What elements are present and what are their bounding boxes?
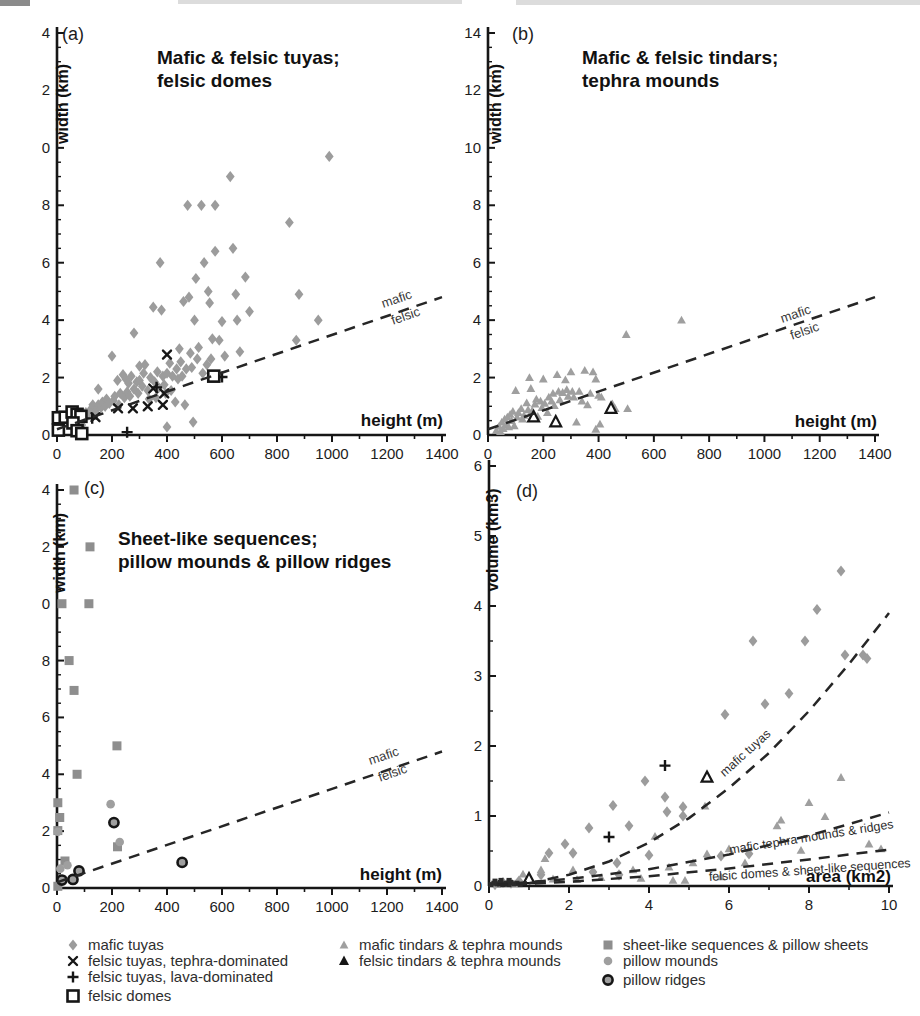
svg-text:6: 6 [42,708,50,725]
pillow-mounds-marker-icon [600,953,616,969]
svg-text:6: 6 [42,254,50,271]
svg-text:600: 600 [209,898,234,915]
svg-text:1200: 1200 [370,898,403,915]
svg-text:6: 6 [725,896,733,913]
svg-text:4: 4 [473,311,481,328]
legend-label: mafic tuyas [88,936,164,953]
svg-text:1000: 1000 [315,898,348,915]
svg-text:8: 8 [473,196,481,213]
svg-text:400: 400 [154,898,179,915]
legend-label: felsic domes [88,987,171,1004]
felsic-tuyas-lava-marker-icon [65,969,81,985]
svg-text:200: 200 [531,445,556,462]
svg-text:600: 600 [209,445,234,462]
svg-text:8: 8 [805,896,813,913]
svg-text:4: 4 [645,896,653,913]
svg-text:2: 2 [42,81,50,98]
svg-text:800: 800 [264,445,289,462]
svg-text:1400: 1400 [425,898,458,915]
svg-text:1: 1 [474,807,482,824]
legend-label: sheet-like sequences & pillow sheets [623,936,868,953]
svg-text:2: 2 [42,369,50,386]
legend-label: pillow mounds [623,952,718,969]
legend-label: pillow ridges [623,971,706,988]
legend-label: felsic tuyas, tephra-dominated [88,952,288,969]
svg-text:0: 0 [42,595,50,612]
svg-text:600: 600 [641,445,666,462]
felsic-tindars-marker-icon [336,953,352,969]
legend-item-felsic-tuyas-tephra: felsic tuyas, tephra-dominated [65,952,288,969]
svg-text:0: 0 [42,139,50,156]
svg-text:200: 200 [99,445,124,462]
svg-text:height (m): height (m) [361,411,443,430]
scatter-panels-canvas: 020040060080010001200140042086420maficfe… [0,0,920,920]
legend-item-felsic-tindars: felsic tindars & tephra mounds [336,952,561,969]
svg-text:3: 3 [474,667,482,684]
svg-text:4: 4 [42,765,50,782]
svg-text:6: 6 [474,457,482,474]
svg-text:width (km): width (km) [54,64,71,145]
svg-text:tephra mounds: tephra mounds [582,70,719,91]
svg-text:width (km): width (km) [51,513,68,594]
svg-text:(a): (a) [62,24,84,44]
svg-text:2: 2 [565,896,573,913]
pillow-ridges-marker-icon [600,972,616,988]
felsic-tuyas-tephra-marker-icon [65,953,81,969]
svg-text:0: 0 [42,879,50,896]
figure: 020040060080010001200140042086420maficfe… [0,0,920,1016]
svg-text:felsic domes: felsic domes [157,70,272,91]
svg-text:pillow mounds & pillow ridges: pillow mounds & pillow ridges [118,551,391,572]
svg-text:10: 10 [881,896,898,913]
svg-text:4: 4 [42,311,50,328]
svg-text:2: 2 [473,369,481,386]
svg-text:1000: 1000 [315,445,348,462]
svg-text:width (km): width (km) [487,64,504,145]
svg-text:mafic tuyas: mafic tuyas [717,727,773,780]
svg-text:0: 0 [53,445,61,462]
svg-text:4: 4 [42,24,50,41]
legend-label: felsic tindars & tephra mounds [359,952,561,969]
svg-text:1000: 1000 [748,445,781,462]
legend-label: felsic tuyas, lava-dominated [88,968,273,985]
svg-text:height (m): height (m) [360,865,442,884]
felsic-domes-marker-icon [65,988,81,1004]
svg-text:8: 8 [42,652,50,669]
svg-text:1200: 1200 [803,445,836,462]
svg-text:2: 2 [42,538,50,555]
legend-item-mafic-tuyas: mafic tuyas [65,936,164,953]
svg-text:Mafic & felsic tuyas;: Mafic & felsic tuyas; [157,47,340,68]
svg-text:0: 0 [474,877,482,894]
svg-text:6: 6 [473,254,481,271]
svg-text:1400: 1400 [425,445,458,462]
svg-text:(d): (d) [516,481,538,501]
svg-text:5: 5 [474,527,482,544]
legend-item-felsic-tuyas-lava: felsic tuyas, lava-dominated [65,968,273,985]
svg-text:8: 8 [42,196,50,213]
svg-text:12: 12 [464,81,481,98]
legend-item-felsic-domes: felsic domes [65,987,171,1004]
svg-text:800: 800 [697,445,722,462]
svg-text:mafic tephra mounds & ridges: mafic tephra mounds & ridges [728,817,894,857]
svg-text:2: 2 [474,737,482,754]
legend-item-mafic-tindars: mafic tindars & tephra mounds [336,936,562,953]
svg-text:2: 2 [42,822,50,839]
mafic-tindars-marker-icon [336,937,352,953]
legend-item-pillow-mounds: pillow mounds [600,952,718,969]
svg-text:0: 0 [485,896,493,913]
svg-text:200: 200 [99,898,124,915]
svg-text:area (km2): area (km2) [806,867,891,886]
svg-text:800: 800 [264,898,289,915]
legend-item-sheet-like: sheet-like sequences & pillow sheets [600,936,868,953]
legend-item-pillow-ridges: pillow ridges [600,971,706,988]
svg-text:0: 0 [473,426,481,443]
svg-text:Sheet-like sequences;: Sheet-like sequences; [118,528,318,549]
svg-text:14: 14 [464,24,481,41]
svg-text:4: 4 [42,481,50,498]
svg-text:(b): (b) [512,24,534,44]
svg-text:400: 400 [154,445,179,462]
svg-text:1200: 1200 [370,445,403,462]
svg-text:Mafic & felsic tindars;: Mafic & felsic tindars; [582,47,778,68]
svg-text:1400: 1400 [858,445,891,462]
legend-label: mafic tindars & tephra mounds [359,936,562,953]
svg-text:4: 4 [474,597,482,614]
